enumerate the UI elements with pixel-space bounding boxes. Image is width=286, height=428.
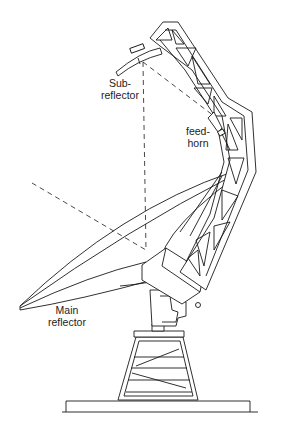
antenna-drawing xyxy=(0,0,286,428)
antenna-diagram: Sub- reflector feed- horn Main reflector xyxy=(0,0,286,428)
pedestal-tower xyxy=(118,324,198,400)
label-feedhorn-line1: feed- xyxy=(186,125,210,137)
label-subreflector-line2: reflector xyxy=(101,89,139,101)
label-main-reflector-line1: Main xyxy=(48,304,86,316)
label-feedhorn: feed- horn xyxy=(186,125,210,149)
label-feedhorn-line2: horn xyxy=(186,137,210,149)
label-subreflector: Sub- reflector xyxy=(101,77,139,101)
ground-base xyxy=(62,401,258,412)
label-main-reflector-line2: reflector xyxy=(48,316,86,328)
subreflector-element xyxy=(116,44,162,76)
label-main-reflector: Main reflector xyxy=(48,304,86,328)
label-subreflector-line1: Sub- xyxy=(101,77,139,89)
